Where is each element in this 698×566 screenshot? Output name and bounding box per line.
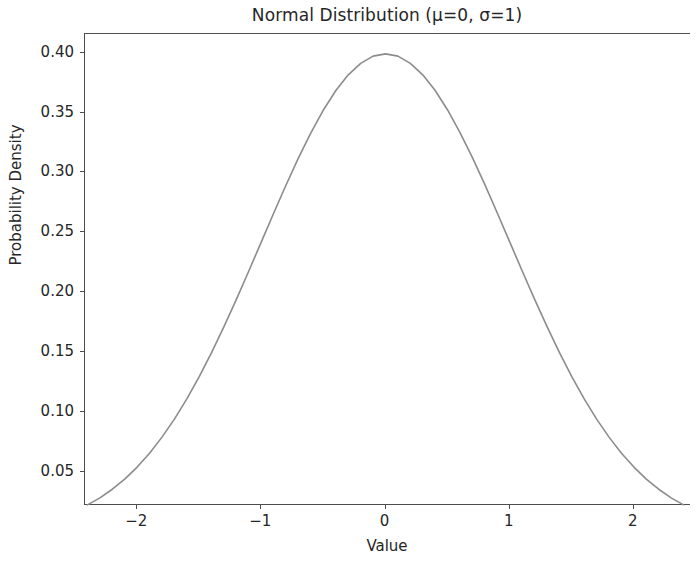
x-tick-mark — [260, 505, 261, 509]
y-tick-label: 0.40 — [0, 43, 74, 61]
x-tick-label: 0 — [355, 511, 415, 531]
y-tick-mark — [80, 52, 84, 53]
y-axis-label-wrapper: Probability Density — [6, 95, 26, 295]
curve-path — [87, 54, 683, 505]
x-tick-mark — [509, 505, 510, 509]
y-tick-mark — [80, 291, 84, 292]
x-axis-label: Value — [84, 536, 690, 556]
x-tick-label: −1 — [230, 511, 290, 531]
x-tick-mark — [633, 505, 634, 509]
x-tick-label: 2 — [603, 511, 663, 531]
y-tick-mark — [80, 171, 84, 172]
x-tick-mark — [385, 505, 386, 509]
y-tick-label: 0.05 — [0, 462, 74, 480]
x-tick-label: 1 — [479, 511, 539, 531]
y-tick-mark — [80, 112, 84, 113]
y-tick-mark — [80, 411, 84, 412]
chart-figure: Normal Distribution (μ=0, σ=1) −2−1012 0… — [0, 0, 698, 566]
y-tick-label: 0.15 — [0, 342, 74, 360]
y-tick-label: 0.10 — [0, 402, 74, 420]
y-axis-label: Probability Density — [7, 124, 25, 265]
x-tick-label: −2 — [106, 511, 166, 531]
y-tick-mark — [80, 471, 84, 472]
chart-title: Normal Distribution (μ=0, σ=1) — [84, 4, 690, 26]
y-tick-mark — [80, 231, 84, 232]
plot-area — [84, 33, 690, 505]
x-tick-mark — [136, 505, 137, 509]
y-tick-mark — [80, 351, 84, 352]
normal-distribution-curve — [85, 34, 691, 506]
